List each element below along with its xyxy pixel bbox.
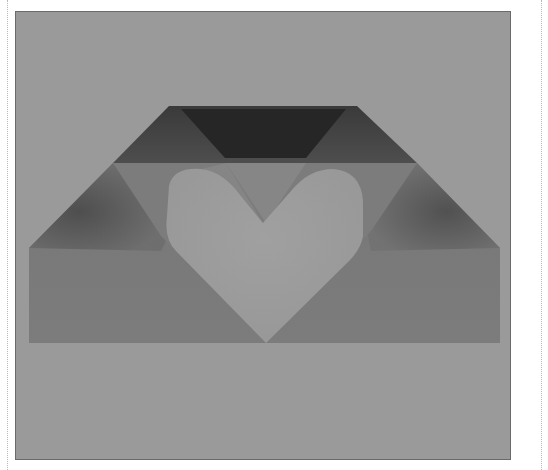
photo-frame: Grayscale photograph of a folded paper e… <box>15 11 511 460</box>
dotted-rule-left <box>7 0 8 470</box>
dotted-rule-right <box>541 0 542 470</box>
origami-envelope-photo <box>16 12 510 459</box>
